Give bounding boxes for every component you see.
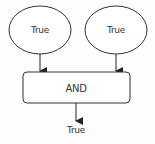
- output-label: True: [67, 125, 85, 135]
- input-1-label: True: [31, 25, 49, 35]
- gate-label: AND: [65, 83, 86, 94]
- diagram-canvas: [0, 0, 155, 144]
- input-2-label: True: [107, 25, 125, 35]
